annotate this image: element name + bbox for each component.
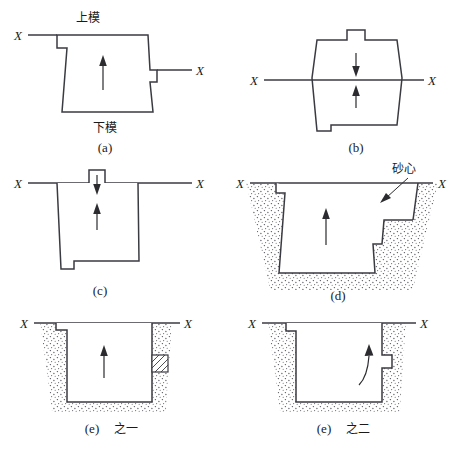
panel-e2: X X (e) 之二	[228, 300, 456, 451]
lower-mold-label: 下模	[93, 121, 117, 135]
sand-core-leader-d	[380, 178, 408, 203]
x-label-right-c: X	[195, 176, 205, 191]
upper-mold-label: 上模	[76, 11, 100, 25]
x-label-left-e1: X	[19, 316, 29, 331]
panel-c: X X (c)	[0, 160, 228, 305]
panel-e1: X X (e) 之一	[0, 300, 228, 451]
x-label-right-b: X	[427, 73, 437, 88]
sand-core-label: 砂心	[392, 162, 416, 176]
caption-e1-prefix: (e)	[85, 421, 99, 436]
x-label-left-b: X	[249, 73, 259, 88]
caption-b: (b)	[348, 140, 363, 155]
part-outline-c	[57, 183, 139, 269]
panel-b: X X (b)	[228, 0, 456, 160]
x-label-right-d: X	[437, 176, 447, 191]
caption-e2-suffix: 之二	[346, 422, 370, 436]
x-label-right-a: X	[195, 63, 205, 78]
part-outline-a	[57, 35, 157, 112]
x-label-left-a: X	[13, 28, 23, 43]
figure-root: X X 上模 下模 (a) X X (b)	[0, 0, 456, 451]
x-label-right-e1: X	[183, 316, 193, 331]
caption-c: (c)	[93, 283, 107, 298]
caption-e1-suffix: 之一	[114, 422, 138, 436]
caption-a: (a)	[98, 140, 112, 155]
x-label-left-e2: X	[247, 316, 257, 331]
x-label-left-c: X	[13, 176, 23, 191]
loose-piece-e1	[152, 355, 168, 372]
panel-d: 砂心 X X (d)	[228, 160, 456, 305]
x-label-right-e2: X	[419, 316, 429, 331]
x-label-left-d: X	[235, 176, 245, 191]
caption-e2-prefix: (e)	[317, 421, 331, 436]
panel-a: X X 上模 下模 (a)	[0, 0, 228, 160]
part-outline-e2	[286, 323, 392, 402]
